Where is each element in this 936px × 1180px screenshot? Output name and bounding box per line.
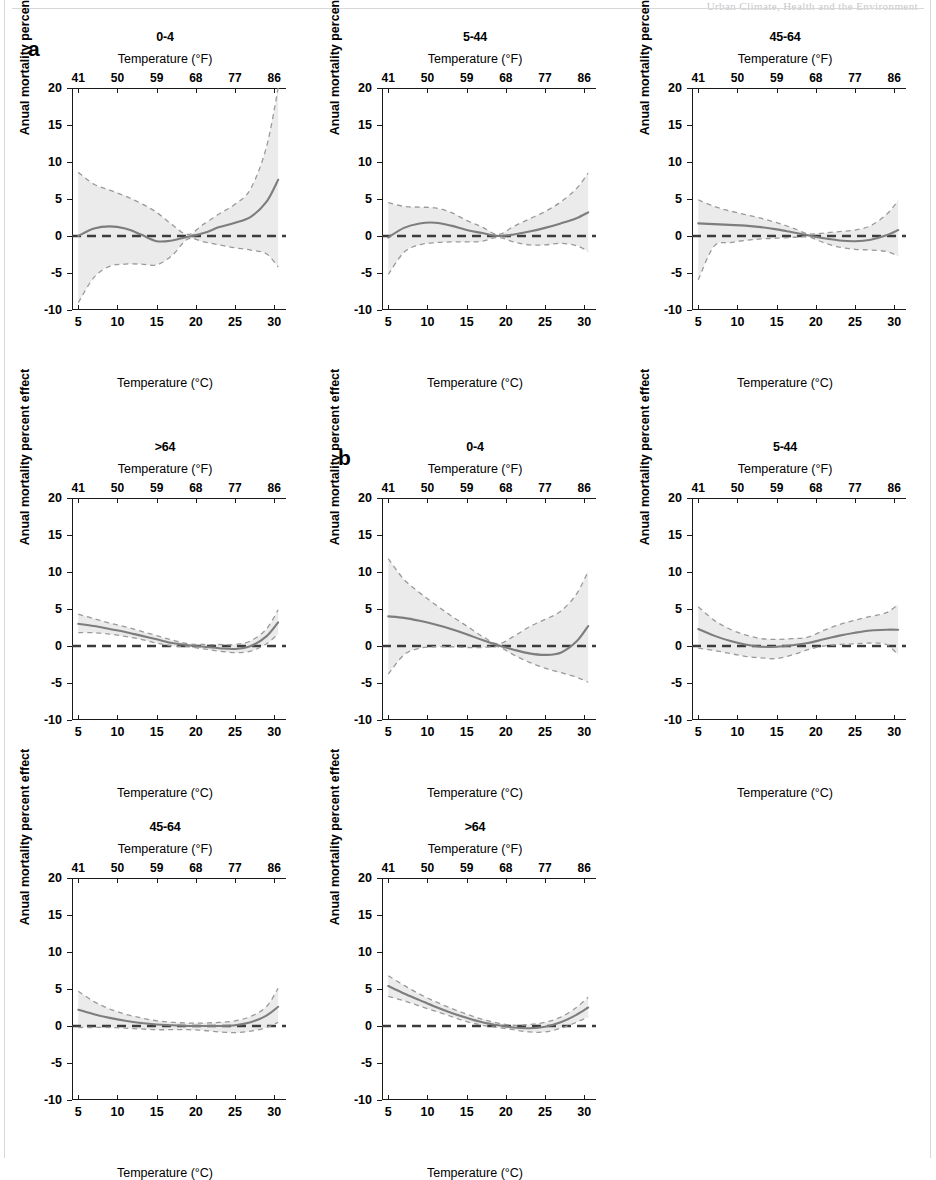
x-tick-label-fahrenheit: 68 (809, 481, 822, 495)
x-tick-label-fahrenheit: 86 (888, 71, 901, 85)
x-tick-label-celsius: 30 (577, 725, 591, 739)
x-tick-label-celsius: 20 (499, 1105, 513, 1119)
y-tick (687, 720, 692, 721)
x-tick-label-fahrenheit: 77 (538, 861, 551, 875)
page-edge-right (930, 0, 931, 1158)
chart-panel-b-4564: 45-64Temperature (°F)Temperature (°C)Anu… (20, 820, 310, 1180)
chart-panel-b-544: 5-44Temperature (°F)Temperature (°C)Anua… (640, 440, 930, 800)
x-tick-label-celsius: 30 (267, 725, 281, 739)
y-tick-label: -5 (361, 676, 372, 690)
x-tick-label-fahrenheit: 59 (460, 481, 473, 495)
panel-title: 0-4 (20, 30, 310, 44)
x-tick-label-celsius: 10 (421, 1105, 435, 1119)
x-tick-label-fahrenheit: 50 (731, 481, 744, 495)
y-tick (377, 310, 382, 311)
panel-title: 45-64 (640, 30, 930, 44)
x-tick-label-fahrenheit: 50 (421, 71, 434, 85)
y-tick-label: 20 (48, 871, 62, 885)
x-tick-label-celsius: 20 (499, 315, 513, 329)
y-axis-title: Anual mortality percent effect (328, 0, 342, 162)
x-tick-label-celsius: 10 (731, 315, 745, 329)
y-tick-label: 20 (48, 491, 62, 505)
x-tick-label-celsius: 5 (385, 315, 392, 329)
y-tick (377, 1100, 382, 1101)
x-tick-label-celsius: 15 (770, 315, 784, 329)
x-tick-label-fahrenheit: 50 (731, 71, 744, 85)
x-tick-label-fahrenheit: 68 (499, 481, 512, 495)
x-tick-label-fahrenheit: 50 (111, 71, 124, 85)
curve-layer (72, 878, 286, 1100)
bottom-axis-title-celsius: Temperature (°C) (640, 786, 930, 800)
x-tick-label-celsius: 5 (75, 1105, 82, 1119)
x-tick-label-fahrenheit: 86 (578, 861, 591, 875)
y-tick-label: 15 (668, 528, 682, 542)
x-tick-label-fahrenheit: 41 (692, 71, 705, 85)
top-axis-title-fahrenheit: Temperature (°F) (330, 52, 620, 66)
x-tick-label-fahrenheit: 86 (268, 71, 281, 85)
y-tick-label: -5 (361, 266, 372, 280)
curve-layer (72, 498, 286, 720)
y-tick-label: 15 (48, 528, 62, 542)
panel-title: >64 (20, 440, 310, 454)
panel-title: 5-44 (640, 440, 930, 454)
x-tick-label-fahrenheit: 50 (421, 861, 434, 875)
x-tick-label-fahrenheit: 50 (111, 481, 124, 495)
x-tick-label-celsius: 20 (499, 725, 513, 739)
y-tick-label: 5 (55, 602, 62, 616)
x-tick-label-fahrenheit: 68 (189, 481, 202, 495)
y-tick-label: 0 (675, 639, 682, 653)
x-tick-label-fahrenheit: 86 (268, 481, 281, 495)
y-tick-label: -5 (671, 676, 682, 690)
x-tick-label-fahrenheit: 86 (888, 481, 901, 495)
plot-area: 4150596877865101520253020151050-5-10 (382, 88, 596, 310)
y-tick-label: 0 (675, 229, 682, 243)
y-tick-label: 10 (358, 155, 372, 169)
curve-layer (382, 88, 596, 310)
panel-title: 0-4 (330, 440, 620, 454)
panel-title: >64 (330, 820, 620, 834)
x-tick-label-celsius: 10 (421, 315, 435, 329)
y-axis-title: Anual mortality percent effect (638, 0, 652, 162)
y-tick-label: 0 (55, 1019, 62, 1033)
plot-area: 4150596877865101520253020151050-5-10 (692, 88, 906, 310)
bottom-axis-title-celsius: Temperature (°C) (20, 786, 310, 800)
running-header: Urban Climate, Health and the Environmen… (707, 0, 918, 12)
y-tick-label: 15 (48, 908, 62, 922)
chart-panel-b-64: >64Temperature (°F)Temperature (°C)Anual… (330, 820, 620, 1180)
x-tick-label-fahrenheit: 59 (460, 861, 473, 875)
top-axis-title-fahrenheit: Temperature (°F) (20, 842, 310, 856)
x-tick-label-fahrenheit: 77 (848, 71, 861, 85)
y-tick-label: 0 (365, 1019, 372, 1033)
x-tick-label-celsius: 5 (695, 725, 702, 739)
plot-area: 4150596877865101520253020151050-5-10 (692, 498, 906, 720)
y-tick-label: 15 (358, 528, 372, 542)
y-tick-label: 20 (358, 871, 372, 885)
y-tick-label: -5 (361, 1056, 372, 1070)
x-tick-label-fahrenheit: 41 (72, 71, 85, 85)
y-tick-label: 10 (48, 945, 62, 959)
bottom-axis-title-celsius: Temperature (°C) (330, 786, 620, 800)
x-tick-label-fahrenheit: 59 (150, 71, 163, 85)
x-tick-label-fahrenheit: 77 (538, 71, 551, 85)
bottom-axis-title-celsius: Temperature (°C) (330, 376, 620, 390)
x-tick-label-celsius: 5 (695, 315, 702, 329)
x-tick-label-fahrenheit: 41 (382, 861, 395, 875)
x-tick-label-celsius: 30 (577, 1105, 591, 1119)
top-axis-title-fahrenheit: Temperature (°F) (330, 842, 620, 856)
y-tick-label: 15 (358, 118, 372, 132)
top-axis-title-fahrenheit: Temperature (°F) (20, 462, 310, 476)
y-axis-title: Anual mortality percent effect (638, 342, 652, 572)
x-tick-label-celsius: 15 (150, 1105, 164, 1119)
x-tick-label-fahrenheit: 77 (538, 481, 551, 495)
x-tick-label-celsius: 5 (385, 725, 392, 739)
x-tick-label-celsius: 15 (150, 725, 164, 739)
x-tick-label-fahrenheit: 59 (150, 481, 163, 495)
panel-title: 5-44 (330, 30, 620, 44)
y-tick-label: -10 (354, 303, 372, 317)
x-tick-label-celsius: 15 (770, 725, 784, 739)
x-tick-label-fahrenheit: 68 (189, 861, 202, 875)
chart-panel-a-64: >64Temperature (°F)Temperature (°C)Anual… (20, 440, 310, 800)
y-tick (377, 720, 382, 721)
x-tick-label-celsius: 20 (189, 315, 203, 329)
x-tick-label-fahrenheit: 41 (72, 861, 85, 875)
